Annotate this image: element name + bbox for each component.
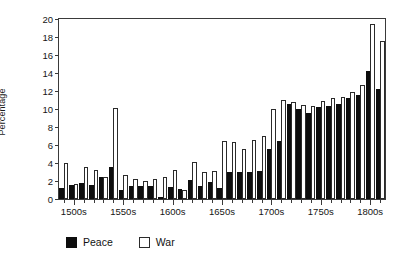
x-axis-tick [252,199,253,203]
bar-war-1650s [222,141,227,199]
y-axis-tick-label: 12 [42,86,53,97]
bar-war-1640s [212,171,217,199]
bar-peace-1550s [119,190,124,199]
chart-legend: Peace War [66,236,175,248]
bar-war-1720s [291,102,296,199]
x-axis-tick [301,199,302,203]
x-axis-tick [271,199,272,205]
x-axis-tick [350,199,351,203]
bar-peace-1650s [217,188,222,199]
x-axis-tick-label: 1550s [110,206,136,217]
bar-peace-1810s [376,89,381,199]
legend-item-war: War [139,236,175,248]
bar-peace-1490s [59,188,64,199]
bar-war-1600s [173,170,178,199]
y-axis-tick-label: 10 [42,104,53,115]
bar-war-1540s [113,108,118,199]
x-axis-tick [341,199,342,203]
legend-swatch-peace-icon [66,237,77,248]
bar-peace-1580s [148,186,153,200]
bar-series-container [59,19,385,199]
x-axis-tick [192,199,193,203]
bar-peace-1610s [178,189,183,199]
bar-peace-1750s [316,107,321,199]
x-axis-tick-label: 1750s [308,206,334,217]
x-axis-tick [242,199,243,203]
bar-war-1750s [321,101,326,199]
x-axis-tick [232,199,233,203]
bar-peace-1570s [138,186,143,199]
bar-war-1610s [182,190,187,199]
bar-war-1810s [380,41,385,199]
bar-war-1790s [360,85,365,199]
bar-peace-1520s [89,185,94,199]
bar-peace-1800s [366,71,371,199]
bar-peace-1600s [168,187,173,199]
y-axis-tick-label: 8 [48,122,53,133]
y-axis-tick-label: 20 [42,14,53,25]
bar-peace-1510s [79,183,84,199]
bar-war-1580s [153,179,158,199]
bar-war-1520s [94,170,99,199]
x-axis-tick [370,199,371,205]
bar-war-1770s [341,97,346,199]
x-axis-tick-label: 1650s [209,206,235,217]
x-axis-tick-label: 1700s [258,206,284,217]
bar-war-1670s [242,149,247,199]
bar-war-1620s [192,162,197,199]
bar-war-1510s [84,167,89,199]
x-axis-tick [311,199,312,203]
bar-peace-1760s [326,106,331,199]
bar-peace-1780s [346,98,351,199]
legend-label-war: War [156,236,175,248]
bar-peace-1640s [208,182,213,199]
bar-peace-1530s [99,177,104,199]
x-axis-tick [94,199,95,203]
bar-war-1740s [311,106,316,199]
bar-chart-figure: Percentage 02468101214161820 1500s1550s1… [0,0,395,265]
x-axis-tick [123,199,124,205]
bar-peace-1620s [188,180,193,199]
x-axis-tick [84,199,85,203]
y-axis-label: Percentage [0,88,7,135]
x-axis-tick [153,199,154,203]
bar-peace-1720s [287,104,292,199]
bar-war-1690s [262,136,267,199]
y-axis-tick-label: 6 [48,140,53,151]
x-axis-tick-label: 1500s [61,206,87,217]
legend-label-peace: Peace [83,236,113,248]
bar-peace-1690s [257,171,262,199]
plot-area: 02468101214161820 1500s1550s1600s1650s17… [58,18,386,200]
bar-war-1710s [281,100,286,199]
bar-war-1550s [123,175,128,199]
x-axis-tick [281,199,282,203]
bar-war-1590s [163,177,168,199]
y-axis-tick-label: 0 [48,194,53,205]
y-axis-tick-label: 2 [48,176,53,187]
x-axis-tick [64,199,65,203]
bar-peace-1560s [129,186,134,200]
bar-war-1630s [202,172,207,199]
x-axis-tick [163,199,164,203]
bar-peace-1770s [336,104,341,199]
bar-peace-1730s [296,109,301,199]
x-axis-tick [262,199,263,203]
bar-war-1570s [143,181,148,199]
bar-peace-1630s [198,186,203,200]
bar-war-1760s [331,98,336,199]
y-axis-tick-label: 4 [48,158,53,169]
bar-war-1500s [74,184,79,199]
x-axis-tick [291,199,292,203]
x-axis-tick [331,199,332,203]
bar-war-1490s [64,163,69,199]
legend-swatch-war-icon [139,237,150,248]
bar-peace-1680s [247,172,252,199]
x-axis-tick [222,199,223,205]
x-axis-tick [202,199,203,203]
bar-peace-1740s [306,113,311,199]
x-axis-tick [321,199,322,205]
x-axis-tick [113,199,114,203]
x-axis-tick [380,199,381,203]
bar-peace-1540s [109,167,114,199]
bar-war-1780s [350,92,355,199]
